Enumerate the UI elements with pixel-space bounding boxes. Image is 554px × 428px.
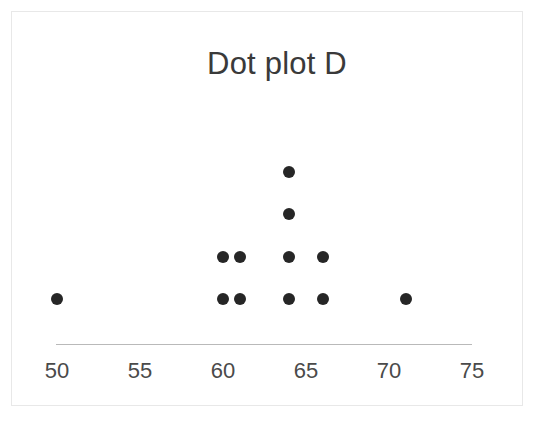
data-point-dot bbox=[234, 293, 246, 305]
data-point-dot bbox=[400, 293, 412, 305]
data-point-dot bbox=[283, 166, 295, 178]
x-axis-tick-label: 60 bbox=[211, 358, 235, 384]
data-point-dot bbox=[283, 251, 295, 263]
data-point-dot bbox=[283, 208, 295, 220]
data-point-dot bbox=[234, 251, 246, 263]
data-point-dot bbox=[283, 293, 295, 305]
data-point-dot bbox=[317, 293, 329, 305]
data-point-dot bbox=[317, 251, 329, 263]
data-point-dot bbox=[217, 293, 229, 305]
plot-area: 505560657075 bbox=[0, 0, 554, 428]
data-point-dot bbox=[217, 251, 229, 263]
x-axis-tick-label: 65 bbox=[294, 358, 318, 384]
x-axis-tick-label: 55 bbox=[128, 358, 152, 384]
dot-plot-figure: Dot plot D 505560657075 bbox=[0, 0, 554, 428]
x-axis-line bbox=[56, 344, 472, 345]
x-axis-tick-label: 50 bbox=[45, 358, 69, 384]
x-axis-tick-label: 75 bbox=[460, 358, 484, 384]
data-point-dot bbox=[51, 293, 63, 305]
x-axis-tick-label: 70 bbox=[377, 358, 401, 384]
